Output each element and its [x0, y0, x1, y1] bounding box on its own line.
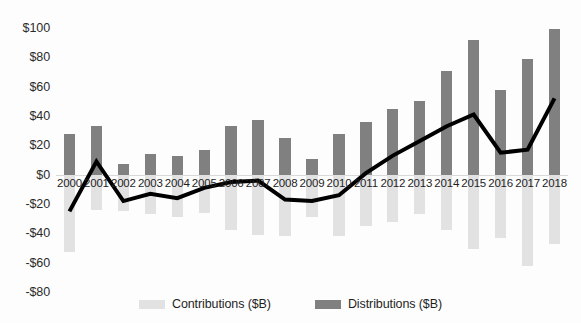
y-tick-label: $0 [36, 168, 50, 182]
bar-distributions [549, 29, 560, 174]
bar-distributions [64, 134, 75, 175]
x-tick-label: 2001 [84, 177, 109, 189]
chart-container: $100$80$60$40$20$0-$20-$40-$60-$80 20002… [0, 0, 581, 323]
bar-distributions [199, 150, 210, 175]
bar-distributions [414, 101, 425, 174]
y-tick-label: $20 [29, 138, 50, 152]
bar-distributions [252, 120, 263, 174]
x-tick-label: 2017 [515, 177, 540, 189]
x-tick-label: 2012 [380, 177, 405, 189]
legend-label: Contributions ($B) [172, 297, 271, 311]
x-tick-label: 2005 [192, 177, 217, 189]
bar-distributions [306, 159, 317, 175]
bar-distributions [145, 154, 156, 175]
x-tick-label: 2007 [246, 177, 271, 189]
y-tick-label: $100 [23, 21, 50, 35]
x-tick-label: 2014 [434, 177, 459, 189]
x-tick-label: 2008 [273, 177, 298, 189]
legend-swatch-icon [315, 300, 341, 309]
chart-legend: Contributions ($B)Distributions ($B) [0, 297, 581, 311]
x-tick-label: 2016 [488, 177, 513, 189]
bar-distributions [468, 40, 479, 175]
bar-distributions [441, 71, 452, 175]
x-tick-label: 2004 [165, 177, 190, 189]
x-tick-label: 2010 [327, 177, 352, 189]
x-tick-label: 2006 [219, 177, 244, 189]
y-tick-label: $60 [29, 80, 50, 94]
x-tick-label: 2013 [407, 177, 432, 189]
legend-swatch-icon [139, 300, 165, 309]
legend-item[interactable]: Contributions ($B) [139, 297, 271, 311]
bar-distributions [118, 164, 129, 174]
y-axis: $100$80$60$40$20$0-$20-$40-$60-$80 [0, 28, 50, 292]
x-tick-label: 2015 [461, 177, 486, 189]
bar-distributions [91, 126, 102, 174]
y-tick-label: -$60 [25, 256, 50, 270]
bar-distributions [387, 109, 398, 175]
legend-label: Distributions ($B) [348, 297, 442, 311]
bar-distributions [172, 156, 183, 175]
bar-distributions [225, 126, 236, 174]
x-tick-label: 2003 [138, 177, 163, 189]
y-tick-label: -$20 [25, 197, 50, 211]
x-tick-label: 2011 [354, 177, 378, 189]
bar-distributions [333, 134, 344, 175]
x-tick-label: 2002 [111, 177, 136, 189]
y-tick-label: -$40 [25, 226, 50, 240]
bar-distributions [279, 138, 290, 175]
x-tick-label: 2000 [57, 177, 82, 189]
y-tick-label: $80 [29, 50, 50, 64]
legend-item[interactable]: Distributions ($B) [315, 297, 442, 311]
bar-distributions [495, 90, 506, 175]
x-tick-label: 2018 [542, 177, 567, 189]
plot-area: 2000200120022003200420052006200720082009… [56, 28, 568, 292]
x-tick-label: 2009 [300, 177, 325, 189]
bar-distributions [522, 59, 533, 175]
y-tick-label: $40 [29, 109, 50, 123]
bar-distributions [360, 122, 371, 175]
